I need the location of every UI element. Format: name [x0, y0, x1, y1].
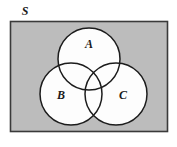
venn-diagram-figure: S A B C — [0, 0, 177, 147]
set-label-c: C — [119, 88, 128, 102]
set-label-b: B — [56, 88, 65, 102]
venn-diagram-canvas: S A B C — [0, 0, 177, 147]
set-label-a: A — [84, 37, 93, 51]
universal-set-label: S — [22, 4, 29, 18]
